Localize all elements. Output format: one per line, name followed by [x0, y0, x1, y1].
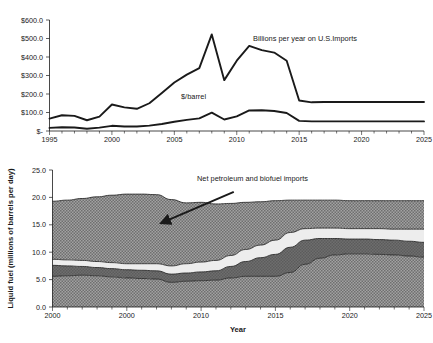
liquid-fuel-y-axis-title: Liquid fuel (millions of barrels per day…: [6, 168, 15, 309]
ytick-label: $300.0: [21, 71, 43, 80]
ytick-label: 20.0: [32, 193, 46, 202]
liquid-fuel-y-axis: 25.0 20.0 15.0 10.0 5.0 0.0 Liquid fuel …: [6, 166, 53, 312]
two-panel-energy-figure: $600.0 $500.0 $400.0 $300.0 $200.0 $100.…: [0, 0, 433, 343]
import-billions-annotation: Billions per year on U.S.Imports: [253, 34, 357, 43]
xtick-label: 2005: [166, 135, 182, 144]
liquid-fuel-bands: [53, 194, 425, 307]
price-per-barrel-annotation: $/barrel: [181, 92, 206, 101]
xtick-label: 2000: [104, 135, 120, 144]
import-cost-chart: $600.0 $500.0 $400.0 $300.0 $200.0 $100.…: [21, 16, 432, 144]
xtick-label: 2015: [291, 135, 307, 144]
liquid-fuel-supply-chart: 25.0 20.0 15.0 10.0 5.0 0.0 Liquid fuel …: [6, 166, 432, 334]
xtick-label: 2025: [416, 135, 432, 144]
xtick-label: 2010: [229, 135, 245, 144]
xtick-label: 1995: [42, 135, 58, 144]
xtick-label: 2015: [267, 311, 283, 320]
price-per-barrel-line: [50, 110, 425, 129]
ytick-label: $500.0: [21, 34, 43, 43]
ytick-label: $200.0: [21, 90, 43, 99]
ytick-label: 25.0: [32, 166, 46, 175]
net-imports-annotation: Net petroleum and biofuel imports: [197, 174, 308, 183]
ytick-label: $100.0: [21, 108, 43, 117]
import-cost-y-ticks: [46, 20, 50, 131]
ytick-label: $400.0: [21, 53, 43, 62]
liquid-fuel-y-ticks: [49, 170, 53, 307]
import-billions-line: [50, 34, 425, 120]
import-cost-x-axis: 1995 2000 2005 2010 2015 2020 2025: [42, 131, 433, 144]
ytick-label: 15.0: [32, 220, 46, 229]
ytick-label: 10.0: [32, 248, 46, 257]
liquid-fuel-x-axis-title: Year: [230, 325, 246, 334]
ytick-label: 5.0: [36, 275, 46, 284]
ytick-label: $600.0: [21, 16, 43, 25]
import-cost-y-axis: $600.0 $500.0 $400.0 $300.0 $200.0 $100.…: [21, 16, 49, 136]
xtick-label: 2020: [354, 135, 370, 144]
figure-canvas: $600.0 $500.0 $400.0 $300.0 $200.0 $100.…: [0, 0, 433, 343]
xtick-label: 2000: [45, 311, 61, 320]
liquid-fuel-x-minor-ticks: [53, 307, 425, 311]
xtick-label: 2025: [416, 311, 432, 320]
xtick-label: 2020: [342, 311, 358, 320]
liquid-fuel-x-axis: 2000 2000 2010 2015 2020 2025 Year: [45, 307, 433, 334]
xtick-label: 2000: [119, 311, 135, 320]
xtick-label: 2010: [193, 311, 209, 320]
